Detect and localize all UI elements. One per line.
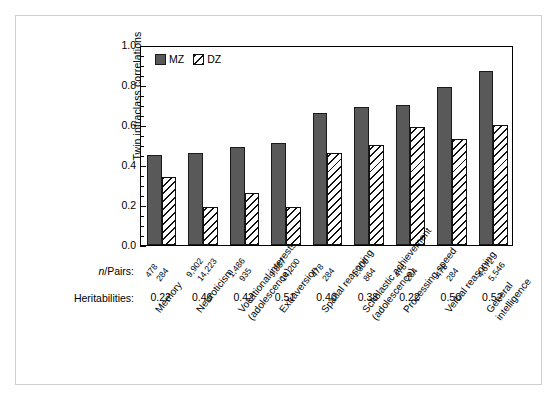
y-tick-mark-major (140, 126, 146, 127)
bar-dz[interactable] (203, 207, 218, 245)
y-tick-label: 0.8 (94, 80, 136, 91)
hatch-pattern (163, 178, 176, 244)
y-tick-mark-minor (140, 176, 144, 177)
hatch-pattern (328, 154, 341, 244)
y-tick-label: 0.6 (94, 120, 136, 131)
bar-dz[interactable] (493, 125, 508, 245)
y-tick-label: 0.4 (94, 160, 136, 171)
npairs-row-label-suffix: /Pairs: (104, 265, 134, 277)
bar-group (188, 47, 217, 245)
bar-dz[interactable] (162, 177, 177, 245)
bar-mz[interactable] (437, 87, 452, 245)
bar-mz[interactable] (271, 143, 286, 245)
heritabilities-row-label: Heritabilities: (34, 292, 134, 304)
bar-mz[interactable] (479, 71, 494, 245)
y-tick-label: 0.2 (94, 200, 136, 211)
bar-group (479, 47, 508, 245)
npairs-row-label: n/Pairs: (34, 265, 134, 277)
y-tick-mark-major (140, 246, 146, 247)
y-tick-mark-minor (140, 116, 144, 117)
y-tick-mark-minor (140, 146, 144, 147)
bar-mz[interactable] (396, 105, 411, 245)
y-tick-mark-minor (140, 186, 144, 187)
y-tick-label: 1.0 (94, 40, 136, 51)
y-tick-mark-minor (140, 56, 144, 57)
hatch-pattern (246, 194, 259, 244)
bar-group (437, 47, 466, 245)
bar-group (313, 47, 342, 245)
y-tick-mark-minor (140, 196, 144, 197)
y-tick-mark-major (140, 86, 146, 87)
plot-area: MZDZ (140, 46, 513, 246)
bar-dz[interactable] (245, 193, 260, 245)
y-tick-mark-major (140, 166, 146, 167)
y-tick-mark-minor (140, 96, 144, 97)
hatch-pattern (370, 146, 383, 244)
bar-group (271, 47, 300, 245)
y-tick-mark-minor (140, 76, 144, 77)
bars-layer (141, 47, 512, 245)
bar-group (354, 47, 383, 245)
bar-group (396, 47, 425, 245)
bar-group (230, 47, 259, 245)
bar-mz[interactable] (188, 153, 203, 245)
bar-mz[interactable] (354, 107, 369, 245)
y-tick-label: 0.0 (94, 240, 136, 251)
y-tick-mark-minor (140, 226, 144, 227)
bar-mz[interactable] (313, 113, 328, 245)
y-tick-mark-minor (140, 66, 144, 67)
hatch-pattern (204, 208, 217, 244)
figure-frame: Twin intraclass correlations 0.00.20.40.… (15, 15, 542, 385)
hatch-pattern (494, 126, 507, 244)
y-tick-mark-minor (140, 216, 144, 217)
bar-dz[interactable] (369, 145, 384, 245)
y-tick-mark-minor (140, 156, 144, 157)
bar-dz[interactable] (452, 139, 467, 245)
y-tick-mark-major (140, 46, 146, 47)
bar-mz[interactable] (230, 147, 245, 245)
hatch-pattern (453, 140, 466, 244)
y-axis-tick-labels: 0.00.20.40.60.81.0 (90, 46, 136, 246)
bar-group (147, 47, 176, 245)
y-tick-mark-major (140, 206, 146, 207)
bar-mz[interactable] (147, 155, 162, 245)
y-tick-mark-minor (140, 136, 144, 137)
bar-dz[interactable] (327, 153, 342, 245)
y-tick-mark-minor (140, 236, 144, 237)
y-tick-mark-minor (140, 106, 144, 107)
